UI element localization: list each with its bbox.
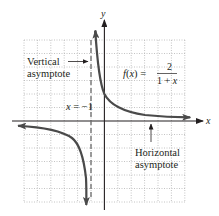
svg-text:2: 2 xyxy=(167,61,172,72)
x-axis-label: x xyxy=(205,115,211,126)
horizontal-asymptote-label-line2: asymptote xyxy=(135,159,178,170)
horizontal-asymptote-label-line1: Horizontal xyxy=(135,147,180,158)
svg-text:1 + x: 1 + x xyxy=(157,75,178,86)
vertical-asymptote-label-line2: asymptote xyxy=(27,68,70,79)
graph-canvas: x y Vertical asymptote x = −1 f(x) = 2 1… xyxy=(0,0,219,216)
asymptote-equation: x = −1 xyxy=(65,101,93,112)
vertical-asymptote-label-line1: Vertical xyxy=(27,56,60,67)
svg-text:f(x) =: f(x) = xyxy=(123,68,146,80)
curve-left-branch xyxy=(18,126,86,205)
function-label: f(x) = 2 1 + x xyxy=(123,61,178,86)
y-axis-label: y xyxy=(100,8,106,19)
